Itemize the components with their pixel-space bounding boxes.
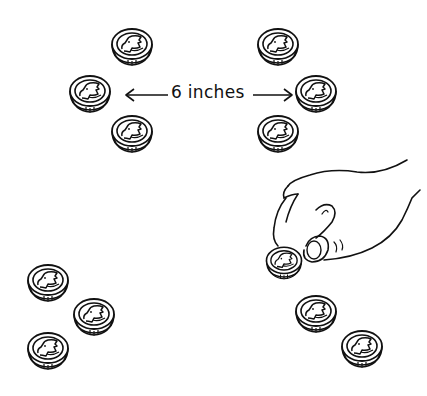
coin-icon xyxy=(338,328,386,370)
coin-icon xyxy=(292,73,340,115)
coin-icon xyxy=(108,113,156,155)
coin-icon xyxy=(66,73,114,115)
coin-illustration: 6 inches xyxy=(0,0,427,396)
measurement-label: 6 inches xyxy=(171,82,245,102)
hand-icon xyxy=(262,150,427,280)
arrow-left-icon xyxy=(124,88,170,102)
coin-icon xyxy=(292,293,340,335)
measurement-unit: inches xyxy=(188,82,245,102)
coin-icon xyxy=(254,26,302,68)
coin-icon xyxy=(24,262,72,304)
measurement-number: 6 xyxy=(171,82,182,102)
coin-icon xyxy=(24,330,72,372)
coin-icon xyxy=(254,113,302,155)
arrow-right-icon xyxy=(252,88,294,102)
coin-icon xyxy=(108,26,156,68)
coin-icon xyxy=(70,296,118,338)
